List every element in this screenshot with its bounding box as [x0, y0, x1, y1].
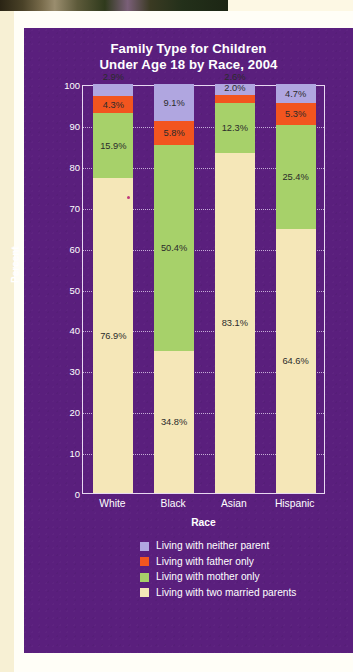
y-axis-title: Percent [10, 246, 21, 283]
print-artifact-dot [127, 196, 130, 199]
y-axis-tick-label: 10 [34, 448, 80, 459]
y-axis-tick-label: 40 [34, 325, 80, 336]
bar-segment[interactable]: 83.1% [215, 153, 255, 493]
x-axis-tick-label-black: Black [138, 498, 208, 509]
bar-segment-label: 12.3% [222, 123, 248, 133]
bar-segment[interactable]: 4.7% [276, 84, 316, 103]
bar-segment-label: 9.1% [164, 98, 185, 108]
bar-segment[interactable]: 2.0% [215, 95, 255, 103]
bar-segment-label: 2.6% [224, 72, 245, 82]
bar-segment[interactable]: 9.1% [154, 84, 194, 121]
bar-group: 76.9%15.9%4.3%2.9%34.8%50.4%5.8%9.1%83.1… [83, 86, 324, 493]
stacked-bar-white[interactable]: 76.9%15.9%4.3%2.9% [93, 84, 133, 493]
bar-segment-label: 25.4% [282, 172, 308, 182]
bar-segment[interactable]: 15.9% [93, 113, 133, 178]
bar-segment[interactable]: 25.4% [276, 125, 316, 229]
x-axis-tick-labels: WhiteBlackAsianHispanic [82, 498, 325, 512]
bar-segment[interactable]: 5.8% [154, 121, 194, 145]
chart-title-line1: Family Type for Children [24, 41, 353, 57]
cream-page-margin [0, 11, 14, 672]
legend-label: Living with two married parents [156, 587, 296, 599]
bar-segment[interactable]: 12.3% [215, 103, 255, 153]
x-axis-tick-label-hispanic: Hispanic [260, 498, 330, 509]
y-axis-tick-label: 80 [34, 161, 80, 172]
bar-segment-label: 50.4% [161, 243, 187, 253]
bar-segment-label: 15.9% [100, 141, 126, 151]
chart-title-line2: Under Age 18 by Race, 2004 [24, 57, 353, 73]
bar-segment[interactable]: 76.9% [93, 178, 133, 493]
bar-segment-label: 64.6% [282, 356, 308, 366]
legend-swatch [140, 542, 149, 551]
bar-segment-label: 76.9% [100, 331, 126, 341]
chart-legend: Living with neither parentLiving with fa… [140, 540, 350, 602]
bar-segment-label: 5.8% [164, 128, 185, 138]
bar-segment[interactable]: 2.9% [93, 84, 133, 96]
legend-label: Living with mother only [156, 571, 260, 583]
bar-segment-label: 2.0% [224, 83, 245, 93]
x-axis-title: Race [82, 517, 325, 528]
legend-label: Living with father only [156, 556, 254, 568]
plot-area: 76.9%15.9%4.3%2.9%34.8%50.4%5.8%9.1%83.1… [82, 85, 325, 494]
stacked-bar-black[interactable]: 34.8%50.4%5.8%9.1% [154, 84, 194, 493]
bar-segment[interactable]: 4.3% [93, 96, 133, 114]
bar-segment[interactable]: 5.3% [276, 103, 316, 125]
y-axis-tick-label: 20 [34, 407, 80, 418]
stacked-bar-hispanic[interactable]: 64.6%25.4%5.3%4.7% [276, 84, 316, 493]
stacked-bar-asian[interactable]: 83.1%12.3%2.0%2.6% [215, 84, 255, 493]
legend-item[interactable]: Living with two married parents [140, 587, 350, 599]
y-axis-tick-label: 0 [34, 489, 80, 500]
legend-swatch [140, 588, 149, 597]
legend-label: Living with neither parent [156, 540, 269, 552]
bar-segment[interactable]: 50.4% [154, 145, 194, 351]
chart-panel: Family Type for Children Under Age 18 by… [24, 28, 353, 653]
bar-segment[interactable]: 34.8% [154, 351, 194, 493]
y-axis-tick-label: 60 [34, 243, 80, 254]
y-axis-tick-label: 50 [34, 284, 80, 295]
bar-segment-label: 34.8% [161, 417, 187, 427]
legend-item[interactable]: Living with neither parent [140, 540, 350, 552]
bar-segment-label: 83.1% [222, 318, 248, 328]
legend-item[interactable]: Living with father only [140, 556, 350, 568]
chart-title: Family Type for Children Under Age 18 by… [24, 41, 353, 73]
y-axis-tick-label: 30 [34, 366, 80, 377]
photo-strip-decoration [0, 0, 228, 11]
legend-swatch [140, 557, 149, 566]
x-axis-tick-label-asian: Asian [199, 498, 269, 509]
bar-segment-label: 2.9% [103, 72, 124, 82]
bar-segment-label: 5.3% [285, 109, 306, 119]
legend-item[interactable]: Living with mother only [140, 571, 350, 583]
y-axis-tick-labels: 0102030405060708090100 [24, 85, 80, 494]
y-axis-tick-label: 70 [34, 202, 80, 213]
y-axis-tick-label: 90 [34, 120, 80, 131]
y-axis-tick-label: 100 [34, 80, 80, 91]
bar-segment[interactable]: 64.6% [276, 229, 316, 493]
x-axis-tick-label-white: White [77, 498, 147, 509]
legend-swatch [140, 573, 149, 582]
bar-segment-label: 4.7% [285, 89, 306, 99]
bar-segment-label: 4.3% [103, 100, 124, 110]
